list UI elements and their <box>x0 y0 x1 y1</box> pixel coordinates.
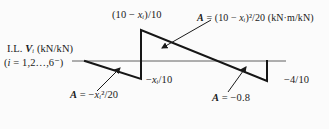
area-label-left: A = −xᵢ²/20 <box>70 89 118 101</box>
area-label-middle: A = −0.8 <box>212 92 250 104</box>
influence-line-caption-line2: (i = 1,2…,6⁻) <box>4 57 63 69</box>
influence-line-caption-line1: I.L. Vᵢ (kN/kN) <box>7 43 73 55</box>
ordinate-label-middle: −xᵢ/10 <box>146 74 172 86</box>
area-label-right: A = (10 − xᵢ)²/20 (kN·m/kN) <box>197 12 314 24</box>
leader-arrow-mid-area <box>228 67 246 92</box>
shear-influence-polyline <box>85 30 267 81</box>
ordinate-label-right: −4/10 <box>284 74 309 86</box>
leader-arrow-right-area <box>162 20 211 48</box>
ordinate-label-top: (10 − xᵢ)/10 <box>112 9 162 21</box>
leader-arrow-left-area <box>97 68 120 91</box>
influence-line-diagram: (10 − xᵢ)/10 A = (10 − xᵢ)²/20 (kN·m/kN)… <box>0 0 329 129</box>
